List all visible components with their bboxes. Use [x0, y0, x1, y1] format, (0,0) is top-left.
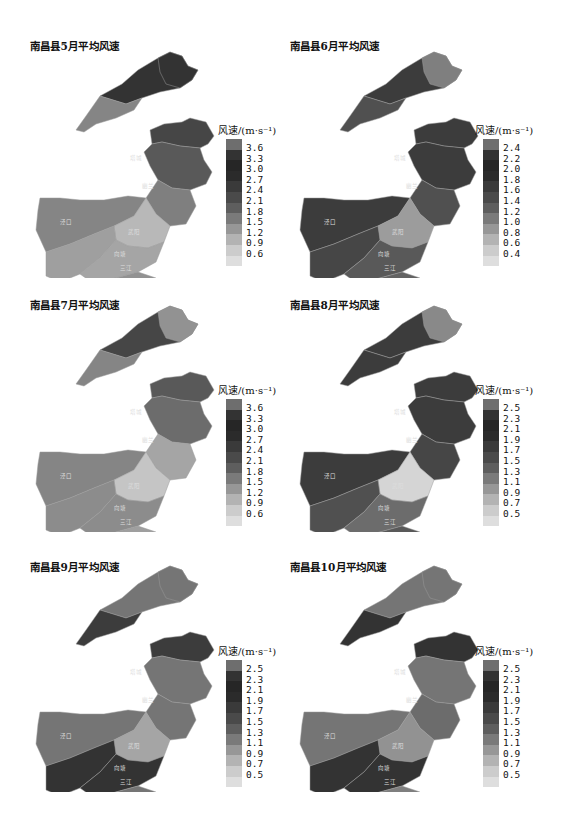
legend-swatch	[226, 681, 242, 692]
legend-swatch	[483, 420, 499, 431]
map-place-label: 武阳	[392, 228, 404, 236]
map-place-label: 武阳	[128, 228, 140, 236]
legend-swatch	[483, 702, 499, 713]
map-place-label: 武阳	[128, 482, 140, 490]
legend-tick-label: 3.6	[246, 403, 263, 414]
choropleth-map: 幽兰武阳三江塔城泾口向塘	[294, 562, 504, 792]
legend-color-bar	[483, 399, 499, 526]
legend-tick-label: 2.1	[246, 456, 263, 467]
legend-swatch	[483, 484, 499, 495]
legend-swatch	[483, 671, 499, 682]
legend: 风速/(m·s⁻¹) 2.42.22.01.81.61.41.21.00.80.…	[475, 122, 545, 272]
panel-september: 南昌县9月平均风速 幽兰武阳三江塔城泾口向塘 风速/(m·s⁻¹) 2.52.3…	[0, 540, 282, 826]
legend-swatch	[483, 234, 499, 245]
map-place-label: 幽兰	[406, 182, 418, 190]
map-region-east-mid	[144, 396, 212, 444]
map-place-label: 武阳	[392, 742, 404, 750]
legend-swatch	[483, 745, 499, 756]
map-place-label: 向塘	[378, 504, 390, 512]
panel-august: 南昌县8月平均风速 幽兰武阳三江塔城泾口向塘 风速/(m·s⁻¹) 2.52.3…	[282, 280, 564, 540]
legend-swatch	[483, 213, 499, 224]
legend-tick-label: 2.1	[246, 196, 263, 207]
legend-swatch	[483, 431, 499, 442]
map-place-label: 三江	[120, 519, 132, 526]
legend: 风速/(m·s⁻¹) 2.52.32.11.91.71.51.31.10.90.…	[475, 382, 545, 532]
legend-swatch	[483, 224, 499, 235]
map-region-east-mid	[144, 656, 212, 704]
legend-tick-labels: 2.52.32.11.91.71.51.31.10.90.70.5	[503, 664, 520, 781]
legend-swatch	[226, 256, 242, 267]
panel-july: 南昌县7月平均风速 幽兰武阳三江塔城泾口向塘 风速/(m·s⁻¹) 3.63.3…	[0, 280, 282, 540]
legend-title: 风速/(m·s⁻¹)	[475, 643, 533, 658]
map-region-east-mid	[408, 396, 476, 444]
legend-tick-label: 2.5	[503, 403, 520, 414]
map-place-label: 塔城	[394, 668, 406, 676]
legend-tick-label: 0.6	[246, 509, 263, 520]
legend-tick-label: 2.5	[503, 664, 520, 675]
legend-swatch	[483, 150, 499, 161]
legend-swatch	[483, 203, 499, 214]
legend-color-bar	[226, 660, 242, 787]
legend-swatch	[226, 516, 242, 527]
legend-swatch	[483, 734, 499, 745]
map-place-label: 幽兰	[406, 696, 418, 704]
legend-swatch	[483, 692, 499, 703]
legend-swatch	[226, 745, 242, 756]
legend-tick-labels: 2.42.22.01.81.61.41.21.00.80.60.4	[503, 143, 520, 260]
legend-swatch	[483, 399, 499, 410]
choropleth-map: 幽兰武阳三江塔城泾口向塘	[294, 302, 504, 532]
legend-tick-labels: 3.63.33.02.72.42.11.81.51.20.90.6	[246, 403, 263, 520]
map-place-label: 塔城	[130, 668, 142, 676]
legend-tick-label: 1.5	[503, 456, 520, 467]
legend-tick-label: 1.5	[503, 717, 520, 728]
panel-october: 南昌县10月平均风速 幽兰武阳三江塔城泾口向塘 风速/(m·s⁻¹) 2.52.…	[282, 540, 564, 826]
legend-tick-labels: 2.52.32.11.91.71.51.31.10.90.70.5	[503, 403, 520, 520]
legend-swatch	[483, 755, 499, 766]
legend-swatch	[483, 410, 499, 421]
choropleth-map: 幽兰武阳三江塔城泾口向塘	[30, 302, 240, 532]
legend: 风速/(m·s⁻¹) 2.52.32.11.91.71.51.31.10.90.…	[218, 643, 288, 793]
legend-swatch	[226, 245, 242, 256]
map-place-label: 向塘	[114, 250, 126, 258]
legend-swatch	[226, 484, 242, 495]
map-place-label: 武阳	[392, 482, 404, 490]
legend-color-bar	[483, 139, 499, 266]
choropleth-map: 幽兰武阳三江塔城泾口向塘	[30, 562, 240, 792]
legend-tick-label: 0.6	[246, 249, 263, 260]
legend-title: 风速/(m·s⁻¹)	[475, 382, 533, 397]
legend-swatch	[483, 245, 499, 256]
map-place-label: 向塘	[114, 504, 126, 512]
legend-tick-label: 0.4	[503, 249, 520, 260]
legend-tick-label: 0.5	[503, 509, 520, 520]
legend-swatch	[483, 452, 499, 463]
map-place-label: 泾口	[60, 472, 72, 480]
legend: 风速/(m·s⁻¹) 3.63.33.02.72.42.11.81.51.20.…	[218, 382, 288, 532]
legend-tick-label: 2.4	[503, 143, 520, 154]
map-place-label: 幽兰	[406, 436, 418, 444]
legend-swatch	[483, 766, 499, 777]
legend-swatch	[483, 777, 499, 788]
legend-swatch	[483, 713, 499, 724]
legend-swatch	[226, 160, 242, 171]
legend-tick-labels: 2.52.32.11.91.71.51.31.10.90.70.5	[246, 664, 263, 781]
map-place-label: 塔城	[394, 154, 406, 162]
map-place-label: 武阳	[128, 742, 140, 750]
map-place-label: 三江	[384, 519, 396, 526]
map-place-label: 向塘	[378, 250, 390, 258]
legend-tick-label: 3.6	[246, 143, 263, 154]
legend-swatch	[226, 463, 242, 474]
legend-swatch	[483, 139, 499, 150]
legend-color-bar	[226, 139, 242, 266]
map-place-label: 向塘	[114, 764, 126, 772]
map-region-east-mid	[408, 656, 476, 704]
map-place-label: 向塘	[378, 764, 390, 772]
legend-swatch	[226, 671, 242, 682]
legend-swatch	[483, 660, 499, 671]
map-place-label: 幽兰	[142, 696, 154, 704]
legend-swatch	[226, 420, 242, 431]
legend-swatch	[226, 181, 242, 192]
legend-swatch	[483, 160, 499, 171]
map-place-label: 三江	[120, 779, 132, 786]
legend-color-bar	[483, 660, 499, 787]
legend-swatch	[226, 766, 242, 777]
